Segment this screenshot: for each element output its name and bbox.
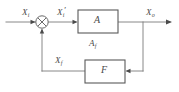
label-error-prime: ′ [64, 5, 66, 15]
label-output-sub: o [152, 12, 155, 18]
arrowhead-into-summer [31, 20, 36, 24]
arrowhead-into-feedback-block [126, 69, 131, 73]
label-feedback-signal: Xf [55, 56, 62, 65]
arrowhead-into-amplifier [73, 20, 78, 24]
label-af-base: A [89, 38, 95, 48]
label-input-signal: Xi [22, 8, 29, 17]
label-error-signal: Xi′ [57, 8, 66, 17]
arrowhead-output [166, 20, 172, 25]
label-input-base: X [22, 7, 28, 17]
label-feedback-sub: f [61, 60, 63, 66]
label-forward-amplifier: A [94, 15, 100, 25]
label-feedback-network: F [101, 65, 107, 75]
arrowhead-feedback-into-summer [40, 29, 44, 34]
label-af-sub: f [95, 43, 97, 49]
label-input-sub: i [28, 12, 30, 18]
label-output-base: X [146, 7, 152, 17]
label-output-signal: Xo [146, 8, 155, 17]
feedback-amplifier-diagram: Xi Xi′ Xo Xf Af A F [0, 0, 179, 92]
label-error-base: X [57, 7, 63, 17]
label-closed-loop-gain: Af [89, 39, 96, 48]
label-feedback-base: X [55, 55, 61, 65]
